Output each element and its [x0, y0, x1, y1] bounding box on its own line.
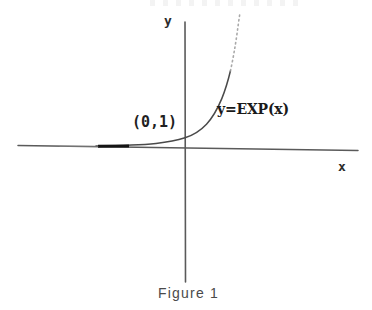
y-axis: [185, 22, 186, 282]
axis-label-x: x: [338, 159, 346, 174]
figure-panel: y x (0,1) y=EXP(x) Figure 1: [0, 0, 372, 310]
equation-annotation: y=EXP(x): [217, 101, 289, 117]
exponential-curve-solid: [96, 71, 230, 146]
axis-label-y: y: [164, 13, 172, 28]
figure-caption: Figure 1: [158, 285, 219, 301]
point-annotation-origin-one: (0,1): [132, 113, 177, 131]
exponential-curve-dotted: [230, 14, 239, 71]
plot-canvas: [0, 0, 372, 310]
